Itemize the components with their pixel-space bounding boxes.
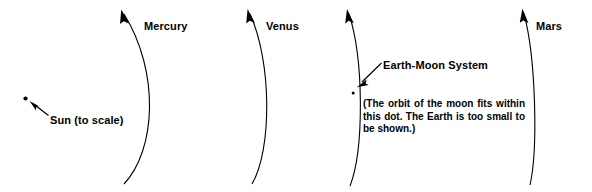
solar-system-scale-figure: Mercury Venus Mars Sun (to scale) Earth-… xyxy=(0,0,592,192)
venus-orbit-label: Venus xyxy=(266,20,299,33)
earth-moon-note-text: (The orbit of the moon fits within this … xyxy=(363,98,525,134)
mars-orbit-label: Mars xyxy=(536,20,562,33)
mercury-orbit-arc xyxy=(124,14,150,184)
earth-orbit-arc xyxy=(349,14,360,186)
earth-moon-system-label: Earth-Moon System xyxy=(383,59,488,72)
earth-orbit-arrowhead xyxy=(345,9,354,24)
earth-moon-note: (The orbit of the moon fits within this … xyxy=(363,98,525,136)
venus-orbit-arc xyxy=(250,14,267,184)
mercury-orbit-label: Mercury xyxy=(144,20,188,33)
mars-orbit-arrowhead xyxy=(520,9,529,24)
sun-leader-arrowhead xyxy=(30,101,39,111)
sun-dot xyxy=(23,96,27,100)
sun-label: Sun (to scale) xyxy=(50,114,124,127)
venus-orbit-arrowhead xyxy=(246,9,255,24)
mercury-orbit-arrowhead xyxy=(120,10,129,25)
earth-moon-dot xyxy=(352,92,355,95)
mars-orbit-arc xyxy=(524,14,535,185)
earth-moon-leader-line xyxy=(362,63,382,82)
